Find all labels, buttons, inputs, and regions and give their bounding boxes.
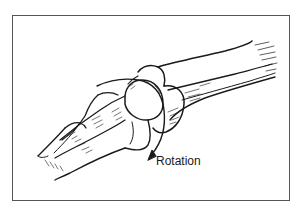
rotation-arrow-icon xyxy=(97,79,165,160)
lower-bones xyxy=(38,93,150,180)
rotation-label: Rotation xyxy=(156,154,201,168)
joint-illustration xyxy=(0,0,306,214)
bone-head xyxy=(125,76,163,120)
upper-bone xyxy=(138,41,277,133)
